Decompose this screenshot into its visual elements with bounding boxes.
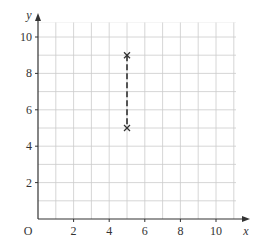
tick-labels: 246810246810Oxy	[20, 8, 249, 238]
grid-lines	[38, 22, 236, 219]
y-tick-label: 6	[26, 103, 32, 117]
x-tick-label: 8	[177, 224, 183, 238]
x-axis-label: x	[242, 224, 249, 238]
coordinate-grid-chart: 246810246810Oxy	[0, 0, 257, 246]
y-tick-label: 10	[20, 30, 32, 44]
x-tick-label: 10	[210, 224, 222, 238]
y-axis-arrow-icon	[35, 13, 41, 21]
x-tick-label: 6	[142, 224, 148, 238]
y-tick-label: 2	[26, 176, 32, 190]
origin-label: O	[24, 224, 33, 238]
axes	[35, 13, 250, 222]
y-axis-label: y	[25, 8, 32, 22]
y-tick-label: 8	[26, 66, 32, 80]
y-tick-label: 4	[26, 139, 32, 153]
x-axis-arrow-icon	[242, 216, 250, 222]
x-tick-label: 2	[71, 224, 77, 238]
x-tick-label: 4	[106, 224, 112, 238]
